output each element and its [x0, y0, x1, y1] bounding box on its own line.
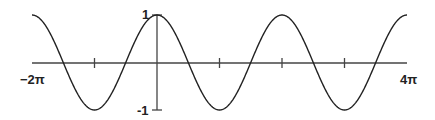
x-max-label: 4π	[400, 73, 417, 86]
cosine-plot	[0, 0, 435, 120]
y-max-label: 1	[142, 8, 149, 21]
y-min-label: -1	[137, 104, 149, 117]
x-min-label: −2π	[20, 73, 45, 86]
